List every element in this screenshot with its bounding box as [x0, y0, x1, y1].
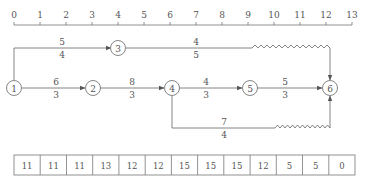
resource-label: 3 [129, 90, 135, 100]
time-scaled-network-diagram: 0 1 2 3 4 5 6 7 8 9 10 11 12 13 5 4 [0, 0, 366, 189]
resource-label: 3 [282, 90, 288, 100]
table-cell: 11 [22, 161, 33, 171]
node-label: 2 [90, 84, 96, 94]
resource-table: 11 11 11 13 12 12 15 15 15 12 5 5 0 [14, 155, 355, 175]
resource-label: 3 [203, 90, 209, 100]
duration-label: 4 [193, 37, 199, 47]
node-label: 3 [115, 44, 121, 54]
table-cell: 11 [74, 161, 85, 171]
duration-label: 5 [59, 37, 65, 47]
duration-label: 5 [282, 77, 288, 87]
tick-label: 11 [294, 10, 305, 20]
table-cell: 12 [258, 161, 269, 171]
node-label: 6 [327, 84, 333, 94]
tick-label: 6 [167, 10, 173, 20]
tick-label: 3 [89, 10, 95, 20]
table-cell: 13 [100, 161, 111, 171]
node-label: 5 [247, 84, 253, 94]
tick-label: 9 [245, 10, 251, 20]
timescale-axis: 0 1 2 3 4 5 6 7 8 9 10 11 12 13 [11, 10, 358, 25]
tick-label: 7 [193, 10, 199, 20]
duration-label: 7 [221, 117, 227, 127]
resource-label: 5 [193, 50, 199, 60]
duration-label: 6 [53, 77, 59, 87]
table-cell: 12 [127, 161, 138, 171]
table-cell: 5 [313, 161, 318, 171]
tick-label: 0 [11, 10, 17, 20]
resource-label: 4 [221, 130, 227, 140]
resource-label: 3 [53, 90, 59, 100]
tick-label: 5 [141, 10, 147, 20]
tick-label: 1 [37, 10, 43, 20]
node-label: 4 [169, 84, 175, 94]
node-label: 1 [11, 84, 17, 94]
arrow-4-6-free-float-wave [275, 125, 330, 128]
table-cell: 0 [339, 161, 344, 171]
tick-label: 12 [320, 10, 331, 20]
table-cell: 5 [287, 161, 292, 171]
table-cell: 15 [179, 161, 190, 171]
tick-label: 13 [346, 10, 358, 20]
tick-label: 4 [115, 10, 121, 20]
table-cell: 12 [153, 161, 164, 171]
resource-label: 4 [59, 50, 65, 60]
tick-label: 10 [268, 10, 280, 20]
tick-label: 8 [219, 10, 225, 20]
duration-label: 4 [203, 77, 209, 87]
table-cell: 11 [48, 161, 59, 171]
tick-label: 2 [63, 10, 69, 20]
arrow-3-6-free-float-wave [252, 45, 330, 48]
table-cell: 15 [232, 161, 243, 171]
table-cell: 15 [205, 161, 216, 171]
duration-label: 8 [129, 77, 135, 87]
